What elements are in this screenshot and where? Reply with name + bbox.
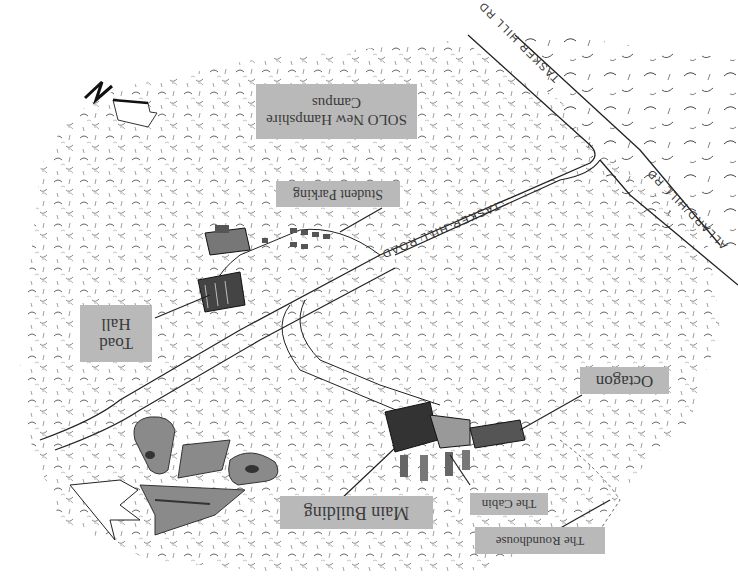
label-main-building: Main Building	[280, 496, 433, 529]
label-toad-hall-line1: Toad	[99, 334, 133, 353]
label-campus-line2: Campus	[312, 95, 361, 112]
label-the-cabin: The Cabin	[470, 493, 548, 515]
label-student-parking: Student Parking	[276, 181, 400, 207]
label-octagon: Octagon	[580, 367, 669, 394]
label-toad-hall-line2: Hall	[101, 315, 130, 334]
label-campus: SOLO New Hampshire Campus	[256, 84, 417, 139]
label-campus-line1: SOLO New Hampshire	[266, 112, 407, 129]
campus-map: TASKER HILL RD ALLARD HILL RD TASKER HIL…	[0, 0, 738, 585]
label-the-roundhouse: The Roundhouse	[475, 527, 605, 554]
label-toad-hall: Toad Hall	[80, 305, 152, 362]
